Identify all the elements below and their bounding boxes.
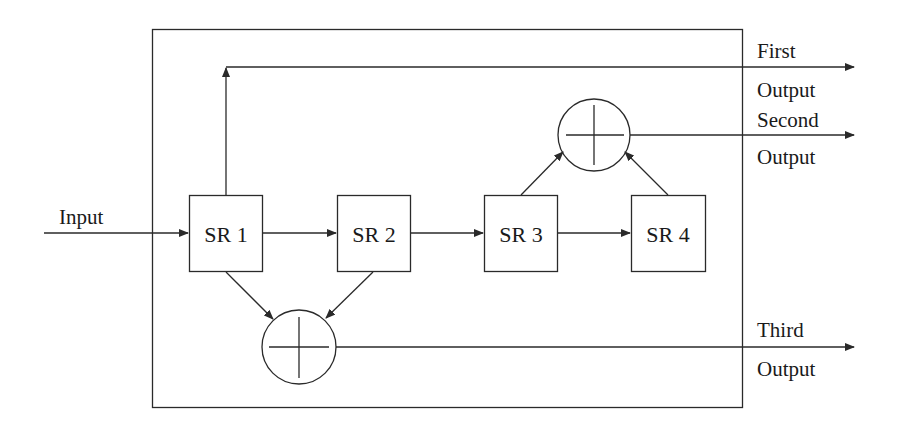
block-sr1-label: SR 1 [204, 222, 247, 247]
block-sr3: SR 3 [485, 196, 558, 272]
second-output-label-line2: Output [757, 145, 816, 169]
sr1-to-adder-bottom-arrow [226, 272, 273, 319]
third-output-label-line2: Output [757, 357, 816, 381]
input-signal: Input [44, 205, 188, 233]
adder-top [558, 99, 630, 171]
block-sr4-label: SR 4 [646, 222, 689, 247]
third-output-label-line1: Third [757, 318, 804, 342]
input-label: Input [59, 205, 103, 229]
block-sr1: SR 1 [190, 196, 263, 272]
sr4-to-adder-top-arrow [625, 152, 668, 195]
shift-register-block-diagram: Input First Output SR 1 SR 2 SR 3 SR 4 S… [0, 0, 899, 427]
block-sr3-label: SR 3 [499, 222, 542, 247]
block-sr4: SR 4 [632, 196, 706, 272]
block-sr2-label: SR 2 [352, 222, 395, 247]
sr2-to-adder-bottom-arrow [326, 272, 373, 318]
first-output-label-line2: Output [757, 78, 816, 102]
third-output-path: Third Output [336, 318, 854, 381]
block-sr2: SR 2 [338, 196, 411, 272]
first-output-label-line1: First [757, 39, 796, 63]
second-output-label-line1: Second [757, 108, 819, 132]
adder-bottom [262, 310, 336, 384]
sr3-to-adder-top-arrow [521, 152, 563, 195]
